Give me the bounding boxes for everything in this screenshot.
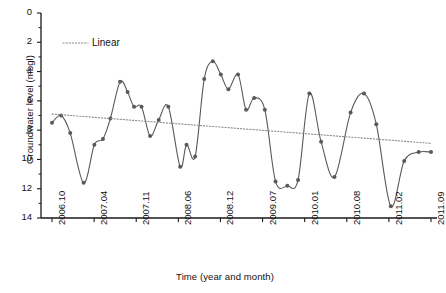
data-point-marker: [417, 150, 421, 154]
x-axis-tick-label: 2010.01: [309, 191, 320, 225]
data-point-marker: [82, 181, 86, 185]
data-point-marker: [101, 137, 105, 141]
data-point-marker: [140, 105, 144, 109]
y-axis-tick-label: 4: [8, 65, 32, 76]
data-point-marker: [148, 134, 152, 138]
data-point-marker: [307, 92, 311, 96]
data-point-marker: [244, 108, 248, 112]
x-axis-tick-label: 2008.06: [182, 191, 193, 225]
data-point-marker: [263, 108, 267, 112]
y-axis-tick-label: 8: [8, 123, 32, 134]
data-point-marker: [236, 73, 240, 77]
data-point-marker: [349, 111, 353, 115]
x-axis-tick-label: 2011.09: [435, 191, 446, 225]
data-point-marker: [50, 121, 54, 125]
data-point-marker: [157, 118, 161, 122]
y-axis-tick-label: 6: [8, 94, 32, 105]
data-point-marker: [296, 178, 300, 182]
data-point-marker: [132, 105, 136, 109]
data-point-marker: [274, 179, 278, 183]
data-point-marker: [202, 77, 206, 81]
y-axis-tick-label: 10: [8, 152, 32, 163]
x-axis-tick-label: 2007.11: [140, 191, 151, 225]
x-axis-tick-label: 2011.02: [393, 191, 404, 225]
data-point-marker: [402, 159, 406, 163]
data-point-marker: [285, 184, 289, 188]
data-series-line: [52, 61, 431, 207]
data-point-marker: [226, 87, 230, 91]
data-point-marker: [68, 131, 72, 135]
data-point-marker: [362, 92, 366, 96]
y-axis-tick-label: 12: [8, 182, 32, 193]
linear-trend-line: [52, 114, 431, 143]
x-axis-title: Time (year and month): [120, 271, 330, 282]
x-axis-tick-label: 2008.12: [224, 191, 235, 225]
y-axis-tick-label: 2: [8, 35, 32, 46]
data-point-marker: [118, 80, 122, 84]
data-point-marker: [429, 150, 433, 154]
data-point-marker: [185, 143, 189, 147]
data-point-marker: [219, 73, 223, 77]
data-point-marker: [92, 143, 96, 147]
x-axis-tick-label: 2007.04: [98, 191, 109, 225]
x-axis-tick-label: 2010.08: [351, 191, 362, 225]
data-series-markers: [50, 59, 433, 208]
data-point-marker: [252, 96, 256, 100]
data-point-marker: [333, 175, 337, 179]
y-axis-tick-label: 14: [8, 211, 32, 222]
x-axis-tick-label: 2009.07: [267, 191, 278, 225]
x-axis-tick-label: 2006.10: [56, 191, 67, 225]
data-point-marker: [193, 155, 197, 159]
data-point-marker: [166, 105, 170, 109]
data-point-marker: [59, 114, 63, 118]
data-point-marker: [126, 90, 130, 94]
y-axis-tick-label: 0: [8, 6, 32, 17]
y-axis-title: Groundwater level (mbgl): [24, 25, 35, 195]
data-point-marker: [178, 165, 182, 169]
legend-linear-label: Linear: [92, 37, 120, 48]
data-point-marker: [211, 59, 215, 63]
data-point-marker: [319, 140, 323, 144]
data-point-marker: [374, 122, 378, 126]
